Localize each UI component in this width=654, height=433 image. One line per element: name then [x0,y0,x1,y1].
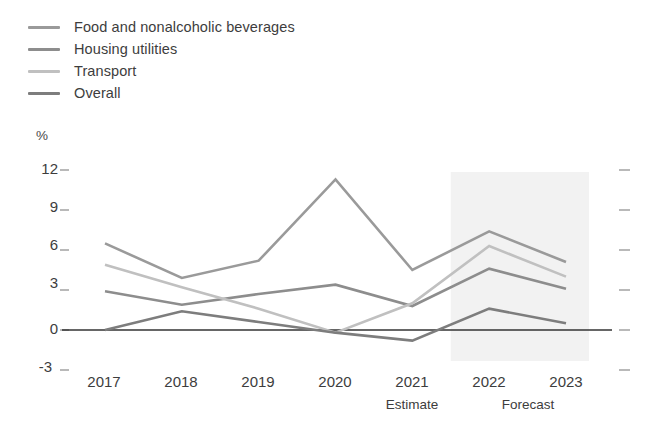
inflation-line-chart: Food and nonalcoholic beverages Housing … [0,0,654,433]
y-tick-label-9: 9 [26,198,58,215]
forecast-shaded-band [451,172,589,361]
forecast-shading-layer [451,172,589,361]
x-sub-label-forecast: Forecast [483,397,573,412]
y-tick-label-6: 6 [26,236,58,253]
y-tick-label-0: 0 [26,320,58,337]
x-tick-label-2022: 2022 [459,373,519,390]
plot-svg [0,0,654,433]
x-tick-label-2023: 2023 [536,373,596,390]
y-tick-label-12: 12 [26,160,58,177]
x-tick-label-2020: 2020 [305,373,365,390]
x-tick-label-2017: 2017 [74,373,134,390]
x-tick-label-2019: 2019 [228,373,288,390]
plot-area: % 12 9 6 3 0 -3 2017 2018 2019 2020 2021… [0,0,654,433]
x-sub-label-estimate: Estimate [367,397,457,412]
x-tick-label-2018: 2018 [151,373,211,390]
y-axis-unit-label: % [36,128,48,143]
x-tick-label-2021: 2021 [382,373,442,390]
y-tick-label-3: 3 [26,274,58,291]
y-tick-label-neg3: -3 [20,358,52,375]
